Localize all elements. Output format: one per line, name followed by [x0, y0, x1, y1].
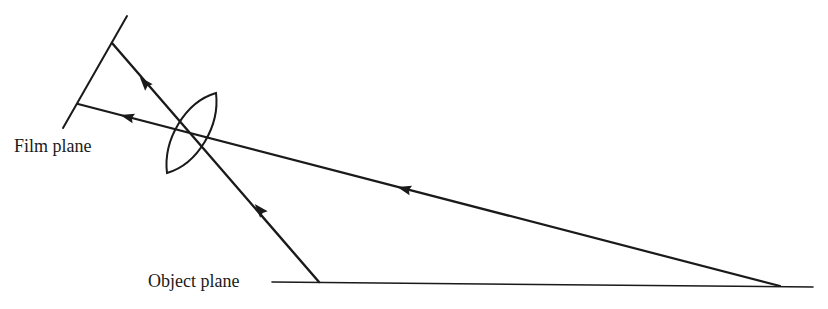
film-plane-label: Film plane — [14, 137, 92, 155]
arrow-icon — [396, 182, 412, 195]
object-plane-line — [272, 282, 813, 287]
ray-far-object — [78, 104, 780, 286]
object-plane-label: Object plane — [148, 272, 239, 290]
arrow-icon — [251, 201, 268, 218]
film-plane-line — [63, 16, 127, 128]
ray-diagram — [0, 0, 828, 309]
arrow-icon — [119, 110, 135, 123]
